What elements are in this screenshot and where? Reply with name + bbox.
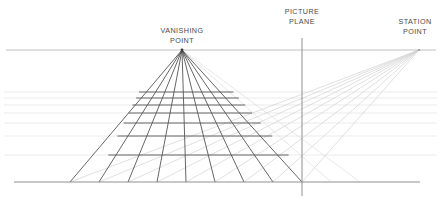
vp-faint-ray xyxy=(182,50,360,182)
vp-faint-ray xyxy=(182,50,331,182)
station-ray xyxy=(273,50,419,182)
perspective-diagram: VANISHING POINT PICTURE PLANE STATION PO… xyxy=(0,0,441,203)
station-ray xyxy=(128,50,419,182)
vanishing-point-label: VANISHING POINT xyxy=(160,26,203,45)
orthogonal-line xyxy=(70,50,182,182)
orthogonal-line xyxy=(182,50,186,182)
picture-plane-label-line1: PICTURE xyxy=(285,7,320,17)
picture-plane-label: PICTURE PLANE xyxy=(285,7,320,26)
station-ray xyxy=(244,50,419,182)
orthogonal-line xyxy=(182,50,302,182)
station-point-marker xyxy=(418,49,420,51)
vanishing-point-faint-rays xyxy=(182,50,360,182)
station-ray xyxy=(215,50,419,182)
vanishing-point-marker xyxy=(181,49,184,52)
perspective-svg xyxy=(0,0,441,203)
station-point-label: STATION POINT xyxy=(398,17,431,36)
orthogonal-line xyxy=(182,50,244,182)
faint-horizontal-extension-lines xyxy=(4,92,437,155)
station-ray xyxy=(157,50,419,182)
station-ray xyxy=(302,50,419,182)
orthogonal-line xyxy=(128,50,182,182)
station-point-rays xyxy=(70,50,419,182)
station-ray xyxy=(70,50,419,182)
vanishing-point-label-line2: POINT xyxy=(160,36,203,46)
picture-plane-label-line2: PLANE xyxy=(285,17,320,27)
vanishing-point-convergence-lines xyxy=(70,50,302,182)
station-point-label-line1: STATION xyxy=(398,17,431,27)
station-point-label-line2: POINT xyxy=(398,27,431,37)
orthogonal-line xyxy=(182,50,215,182)
vanishing-point-label-line1: VANISHING xyxy=(160,26,203,36)
